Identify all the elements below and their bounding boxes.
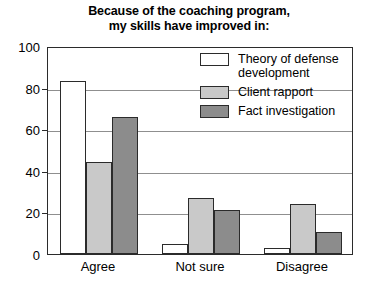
x-axis-tick-label: Disagree [251,260,353,274]
chart-title: Because of the coaching program, my skil… [0,4,378,34]
bar [188,198,214,254]
bar [264,248,290,254]
legend-swatch [200,86,229,99]
y-axis-tick-label: 40 [2,166,40,179]
y-axis-tick-label: 80 [2,83,40,96]
legend-swatch [200,53,229,66]
legend-item: Client rapport [200,85,352,99]
legend-item: Theory of defense development [200,52,352,80]
bar-chart: Because of the coaching program, my skil… [0,0,378,289]
chart-title-line-1: Because of the coaching program, [0,4,378,19]
gridline [48,131,352,132]
bar [290,204,316,254]
legend-swatch [200,105,229,118]
x-axis-tick-label: Agree [47,260,149,274]
y-axis-tick-label: 60 [2,124,40,137]
x-axis-tick-label: Not sure [149,260,251,274]
y-axis-tick-label: 0 [2,249,40,262]
legend-label: Client rapport [238,85,313,99]
legend-label: Theory of defense development [238,52,352,80]
bar [162,244,188,254]
chart-legend: Theory of defense developmentClient rapp… [200,52,352,123]
legend-label: Fact investigation [238,104,335,118]
bar [214,210,240,254]
chart-title-line-2: my skills have improved in: [0,19,378,34]
bar [60,81,86,254]
bar [112,117,138,254]
bar [316,232,342,254]
y-axis-tick-label: 20 [2,207,40,220]
bar [86,162,112,254]
legend-item: Fact investigation [200,104,352,118]
y-axis-tick-label: 100 [2,41,40,54]
